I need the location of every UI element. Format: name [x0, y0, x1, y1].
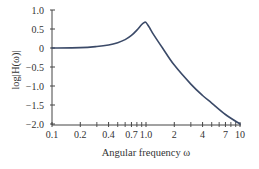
- x-tick-label: 0.4: [102, 129, 115, 140]
- x-tick-label: 4: [200, 129, 205, 140]
- y-tick-label: −0.5: [26, 62, 44, 73]
- x-axis-title: Angular frequency ω: [102, 147, 191, 158]
- bode-magnitude-chart: 1.00.50−0.5−1.0−1.5−2.0 0.10.20.40.71.02…: [0, 0, 259, 169]
- y-tick-label: 1.0: [32, 5, 45, 16]
- x-tick-label: 10: [235, 129, 245, 140]
- y-tick-label: 0: [39, 43, 44, 54]
- series-line: [52, 22, 240, 124]
- x-tick-label: 0.2: [74, 129, 87, 140]
- x-tick-label: 0.1: [46, 129, 59, 140]
- y-tick-label: −2.0: [26, 119, 44, 130]
- x-tick-label: 0.7: [125, 129, 138, 140]
- x-tick-label: 1.0: [140, 129, 153, 140]
- y-tick-label: −1.0: [26, 81, 44, 92]
- y-tick-label: 0.5: [32, 24, 45, 35]
- y-axis-title: log|H(ω)|: [10, 50, 22, 89]
- x-tick-label: 2: [172, 129, 177, 140]
- x-axis: 0.10.20.40.71.024710: [46, 122, 245, 140]
- x-tick-label: 7: [223, 129, 228, 140]
- plot-area: [52, 22, 240, 124]
- y-tick-label: −1.5: [26, 100, 44, 111]
- y-axis: 1.00.50−0.5−1.0−1.5−2.0: [26, 5, 55, 130]
